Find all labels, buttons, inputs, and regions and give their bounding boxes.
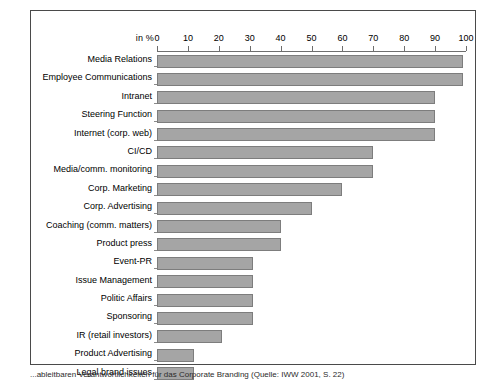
x-tick-label: 20 — [214, 33, 224, 43]
x-tick-label: 40 — [276, 33, 286, 43]
chart-row: Steering Function — [31, 107, 477, 125]
x-tick-mark — [373, 46, 374, 51]
bar — [157, 110, 435, 123]
bar-category-label: Politic Affairs — [0, 293, 152, 304]
bar-category-label: Event-PR — [0, 256, 152, 267]
chart-row: Employee Communications — [31, 70, 477, 88]
x-tick-label: 30 — [245, 33, 255, 43]
bar — [157, 312, 253, 325]
x-tick-label: 70 — [368, 33, 378, 43]
x-tick-mark — [250, 46, 251, 51]
bar-category-label: Product Advertising — [0, 348, 152, 359]
x-tick-label: 10 — [183, 33, 193, 43]
chart-row: Corp. Marketing — [31, 181, 477, 199]
chart-row: Event-PR — [31, 254, 477, 272]
chart-row: Product press — [31, 236, 477, 254]
chart-row: Media Relations — [31, 52, 477, 70]
bar-category-label: Steering Function — [0, 109, 152, 120]
chart-row: Intranet — [31, 89, 477, 107]
bar-category-label: Coaching (comm. matters) — [0, 220, 152, 231]
bar-category-label: Intranet — [0, 91, 152, 102]
chart-row: Politic Affairs — [31, 291, 477, 309]
chart-row: Product Advertising — [31, 346, 477, 364]
x-axis-tick-labels: 0102030405060708090100 — [31, 33, 477, 47]
bar-category-label: Sponsoring — [0, 311, 152, 322]
bar — [157, 146, 373, 159]
x-tick-label: 90 — [430, 33, 440, 43]
bar — [157, 330, 222, 343]
x-tick-label: 60 — [337, 33, 347, 43]
bar — [157, 238, 281, 251]
bar — [157, 257, 253, 270]
figure-caption: ...ableitbaren Verantwortlichkeiten für … — [30, 370, 490, 380]
chart-row: Sponsoring — [31, 309, 477, 327]
bar — [157, 165, 373, 178]
chart-row: Corp. Advertising — [31, 199, 477, 217]
bar-category-label: Media Relations — [0, 54, 152, 65]
bar — [157, 55, 463, 68]
chart-row: Coaching (comm. matters) — [31, 218, 477, 236]
x-tick-mark — [281, 46, 282, 51]
x-tick-mark — [404, 46, 405, 51]
chart-frame: in % 0102030405060708090100 Media Relati… — [30, 10, 476, 365]
x-tick-label: 100 — [458, 33, 473, 43]
bar-rows: Media RelationsEmployee CommunicationsIn… — [31, 52, 477, 383]
x-tick-mark — [188, 46, 189, 51]
bar — [157, 294, 253, 307]
screenshot-page: in % 0102030405060708090100 Media Relati… — [0, 0, 504, 385]
chart-plot-area: in % 0102030405060708090100 Media Relati… — [31, 11, 477, 366]
bar — [157, 275, 253, 288]
bar-category-label: Media/comm. monitoring — [0, 164, 152, 175]
x-tick-label: 0 — [154, 33, 159, 43]
chart-row: Issue Management — [31, 273, 477, 291]
bar-category-label: CI/CD — [0, 146, 152, 157]
bar-category-label: Internet (corp. web) — [0, 128, 152, 139]
bar — [157, 91, 435, 104]
x-tick-mark — [312, 46, 313, 51]
bar — [157, 128, 435, 141]
chart-row: Internet (corp. web) — [31, 126, 477, 144]
x-tick-label: 80 — [399, 33, 409, 43]
x-tick-label: 50 — [306, 33, 316, 43]
bar-category-label: Employee Communications — [0, 72, 152, 83]
x-tick-mark — [157, 46, 158, 51]
x-tick-mark — [466, 46, 467, 51]
bar — [157, 349, 194, 362]
x-tick-mark — [435, 46, 436, 51]
chart-row: Media/comm. monitoring — [31, 162, 477, 180]
chart-row: IR (retail investors) — [31, 328, 477, 346]
bar — [157, 73, 463, 86]
bar — [157, 183, 342, 196]
x-tick-mark — [219, 46, 220, 51]
bar-category-label: Product press — [0, 238, 152, 249]
bar — [157, 220, 281, 233]
bar-category-label: IR (retail investors) — [0, 330, 152, 341]
chart-row: CI/CD — [31, 144, 477, 162]
bar-category-label: Issue Management — [0, 275, 152, 286]
bar — [157, 202, 312, 215]
bar-category-label: Corp. Marketing — [0, 183, 152, 194]
bar-category-label: Corp. Advertising — [0, 201, 152, 212]
x-tick-mark — [342, 46, 343, 51]
